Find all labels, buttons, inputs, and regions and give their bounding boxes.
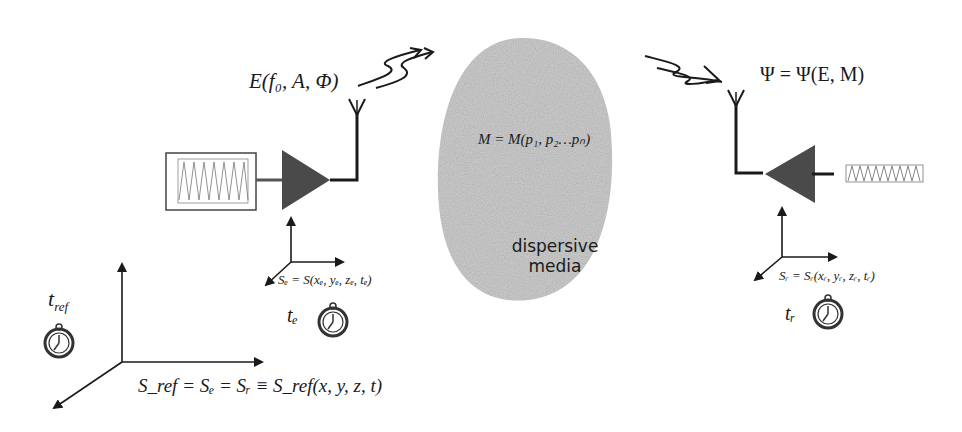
receiver-signal-label: Ψ = Ψ(E, M) [760, 63, 864, 86]
signal-generator [166, 153, 283, 210]
emitter-clock-label: tₑ [287, 304, 298, 327]
emitter-frame-label: Sₑ = S(xₑ, yₑ, zₑ, tₑ) [278, 272, 372, 288]
emitter-amplifier [282, 112, 357, 210]
media-label-line2: media [500, 256, 610, 276]
medium-equation: M = M(p₁, p₂…pₙ) [478, 130, 590, 148]
emitter-signal-label: E(f₀, A, Φ) [249, 69, 338, 94]
media-label-line1: dispersive [500, 236, 610, 256]
reference-clock-icon [45, 324, 73, 357]
received-wave-icon [645, 56, 722, 84]
receiver-clock-icon [814, 295, 842, 328]
receiver-frame-label: Sᵣ = Sᵣ(xᵣ, yᵣ, zᵣ, tᵣ) [779, 268, 875, 284]
reference-clock-sub: ref [54, 299, 68, 314]
receiver-clock-label: tᵣ [785, 302, 795, 325]
receiver-amplifier [765, 145, 834, 203]
emitter-antenna-icon [349, 99, 365, 115]
reference-frame-label: S_ref = Sₑ = Sᵣ ≡ S_ref(x, y, z, t) [138, 375, 382, 397]
emitter-clock-icon [319, 303, 347, 336]
received-signal-display [846, 165, 923, 182]
emitted-wave-icon [358, 48, 433, 88]
reference-clock-label: tref [48, 286, 68, 315]
dispersive-media-label: dispersive media [500, 236, 610, 276]
receiver-antenna-icon [728, 90, 763, 173]
